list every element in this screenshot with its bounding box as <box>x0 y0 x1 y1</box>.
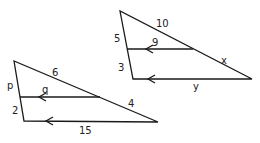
label-4: 4 <box>128 98 134 109</box>
label-y: y <box>193 81 199 92</box>
label-p: p <box>7 80 13 91</box>
label-5: 5 <box>114 33 120 44</box>
label-10: 10 <box>156 18 169 29</box>
left-triangle: 6 p q 4 2 15 <box>7 61 158 136</box>
label-6: 6 <box>52 67 58 78</box>
left-triangle-outline <box>14 61 158 122</box>
label-2: 2 <box>12 105 18 116</box>
label-15: 15 <box>79 125 92 136</box>
right-triangle: 10 5 9 3 x y <box>114 11 252 92</box>
right-triangle-outline <box>120 11 252 79</box>
diagram-canvas: 10 5 9 3 x y 6 p q 4 2 15 <box>0 0 260 143</box>
label-x: x <box>221 55 227 66</box>
label-3: 3 <box>118 62 124 73</box>
label-q: q <box>42 84 48 95</box>
label-9: 9 <box>152 37 158 48</box>
